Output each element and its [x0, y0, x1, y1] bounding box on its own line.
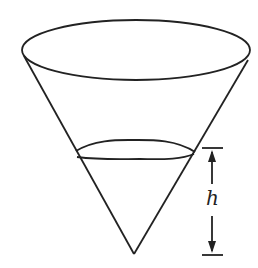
cone-diagram: h [0, 0, 258, 268]
cone-left-side [24, 56, 134, 254]
water-surface-front [77, 154, 194, 159]
arrow-head-up-icon [208, 150, 216, 162]
cone-figure [0, 0, 258, 268]
height-label: h [206, 186, 219, 210]
cone-right-side [134, 60, 248, 254]
water-surface-back [76, 140, 195, 152]
cone-top-rim [22, 20, 250, 80]
arrow-head-down-icon [208, 241, 216, 253]
